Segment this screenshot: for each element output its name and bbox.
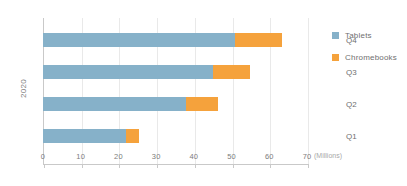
x-tick-mark xyxy=(195,164,196,168)
bar-segment-tablets[interactable] xyxy=(43,97,186,111)
x-tick-label: 30 xyxy=(152,152,161,161)
bar-segment-chromebooks[interactable] xyxy=(186,97,218,111)
x-tick-label: 10 xyxy=(76,152,85,161)
y-axis-title: 2020 xyxy=(19,79,28,98)
bar-segment-chromebooks[interactable] xyxy=(213,65,251,79)
bar-row[interactable] xyxy=(43,97,307,111)
x-tick-mark xyxy=(44,164,45,168)
x-tick-label: 0 xyxy=(41,152,45,161)
x-tick-label: 20 xyxy=(114,152,123,161)
stacked-bar-chart: 2020 TabletsChromebooks 010203040506070(… xyxy=(0,0,407,186)
x-tick-label: 70 xyxy=(303,152,312,161)
x-axis-unit-label: (Millions) xyxy=(314,152,342,159)
chart-legend: TabletsChromebooks xyxy=(332,31,397,62)
bar-segment-chromebooks[interactable] xyxy=(235,33,282,47)
y-category-label: Q4 xyxy=(346,36,357,45)
x-tick-label: 40 xyxy=(189,152,198,161)
y-category-label: Q1 xyxy=(346,132,357,141)
x-tick-label: 60 xyxy=(265,152,274,161)
legend-item[interactable]: Tablets xyxy=(332,31,397,40)
gridline xyxy=(308,18,309,164)
x-tick-mark xyxy=(308,164,309,168)
bar-segment-tablets[interactable] xyxy=(43,33,235,47)
bar-row[interactable] xyxy=(43,129,307,143)
bar-segment-chromebooks[interactable] xyxy=(126,129,139,143)
legend-item[interactable]: Chromebooks xyxy=(332,53,397,62)
x-tick-mark xyxy=(157,164,158,168)
bar-row[interactable] xyxy=(43,65,307,79)
x-tick-label: 50 xyxy=(227,152,236,161)
x-tick-mark xyxy=(82,164,83,168)
x-tick-mark xyxy=(119,164,120,168)
bar-segment-tablets[interactable] xyxy=(43,65,213,79)
y-category-label: Q2 xyxy=(346,100,357,109)
y-category-label: Q3 xyxy=(346,68,357,77)
legend-swatch-icon xyxy=(332,32,339,39)
bar-segment-tablets[interactable] xyxy=(43,129,126,143)
x-tick-mark xyxy=(270,164,271,168)
bar-row[interactable] xyxy=(43,33,307,47)
legend-swatch-icon xyxy=(332,54,339,61)
legend-label: Chromebooks xyxy=(345,53,397,62)
x-tick-mark xyxy=(233,164,234,168)
